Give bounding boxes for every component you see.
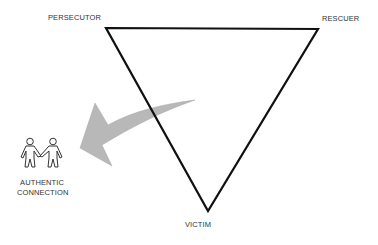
authentic-connection-label: AUTHENTIC CONNECTION — [17, 178, 67, 198]
victim-label: VICTIM — [185, 220, 211, 229]
authentic-connection-line2: CONNECTION — [17, 188, 67, 198]
two-people-holding-hands-icon — [21, 138, 62, 167]
persecutor-label: PERSECUTOR — [48, 13, 101, 22]
rescuer-label: RESCUER — [322, 14, 359, 23]
authentic-connection-line1: AUTHENTIC — [17, 178, 67, 188]
drama-triangle-diagram — [0, 0, 378, 245]
